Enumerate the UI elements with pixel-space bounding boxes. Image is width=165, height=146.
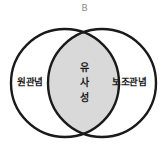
intersection-label: 유 사 성 [76, 62, 92, 103]
diagram-top-label: B [0, 4, 165, 13]
intersection-char-1: 유 [80, 62, 89, 73]
left-set-label: 원관념 [17, 77, 43, 87]
intersection-char-2: 사 [80, 77, 89, 88]
right-set-label: 보조관념 [112, 77, 146, 87]
intersection-char-3: 성 [80, 92, 89, 103]
